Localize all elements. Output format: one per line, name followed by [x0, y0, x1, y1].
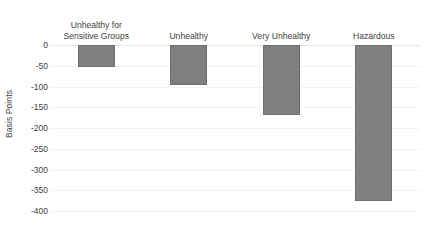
y-axis-tick-label: -100 — [16, 82, 48, 91]
y-axis-title-text: Basis Points — [4, 90, 14, 138]
bar-chart: Basis Points 0-50-100-150-200-250-300-35… — [0, 0, 430, 228]
y-axis-tick-label: -250 — [16, 144, 48, 153]
y-axis-tick-label: -400 — [16, 207, 48, 216]
bar — [170, 45, 207, 85]
category-label: Unhealthy for Sensitive Groups — [50, 20, 143, 42]
plot-area: Unhealthy for Sensitive GroupsUnhealthyV… — [50, 0, 420, 228]
y-axis-tick-label: -200 — [16, 124, 48, 133]
category-label: Very Unhealthy — [235, 31, 328, 42]
y-axis-tick-label: 0 — [16, 41, 48, 50]
y-axis-tick-label: -350 — [16, 186, 48, 195]
y-axis-tick-label: -300 — [16, 165, 48, 174]
bar — [355, 45, 392, 201]
category-label: Hazardous — [328, 31, 421, 42]
y-axis-tick-labels: 0-50-100-150-200-250-300-350-400 — [16, 0, 48, 228]
y-axis-tick-label: -50 — [16, 61, 48, 70]
bar — [78, 45, 115, 67]
bar — [263, 45, 300, 115]
y-axis-tick-label: -150 — [16, 103, 48, 112]
category-label: Unhealthy — [143, 31, 236, 42]
category-axis-labels: Unhealthy for Sensitive GroupsUnhealthyV… — [50, 0, 420, 44]
